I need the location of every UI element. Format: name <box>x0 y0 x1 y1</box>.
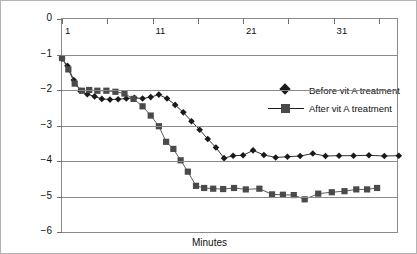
data-point-marker <box>115 96 122 103</box>
data-point-marker <box>341 188 347 194</box>
data-point-marker <box>185 169 191 175</box>
chart-legend: Before vit A treatment After vit A treat… <box>268 81 417 117</box>
y-axis-tick-label: −6 <box>28 225 52 236</box>
data-point-marker <box>272 154 279 161</box>
data-point-marker <box>256 186 262 192</box>
gridline <box>62 126 397 127</box>
y-axis-tick-label: −1 <box>28 48 52 59</box>
data-point-marker <box>366 152 373 159</box>
data-point-marker <box>163 139 169 145</box>
x-axis-tick <box>243 19 244 24</box>
data-point-marker <box>139 103 145 109</box>
series-line <box>62 58 377 199</box>
y-axis-tick-label: 0 <box>28 12 52 23</box>
y-axis-tick <box>57 90 62 91</box>
data-point-marker <box>65 66 71 72</box>
data-point-marker <box>59 55 65 61</box>
data-point-marker <box>329 189 335 195</box>
y-axis-tick-label: −5 <box>28 190 52 201</box>
data-point-marker <box>147 94 154 101</box>
x-axis-tick <box>334 19 335 24</box>
data-point-marker <box>243 186 249 192</box>
data-point-marker <box>374 185 380 191</box>
x-axis-tick <box>198 19 199 24</box>
y-axis-tick <box>57 126 62 127</box>
x-axis-tick-label: 11 <box>156 25 166 36</box>
x-axis-tick-label: 1 <box>65 25 70 36</box>
x-axis-tick <box>288 19 289 24</box>
data-point-marker <box>139 95 146 102</box>
x-axis-tick <box>379 19 380 24</box>
data-point-marker <box>230 152 237 159</box>
data-point-marker <box>107 96 114 103</box>
data-point-marker <box>336 152 343 159</box>
plot-area: Before vit A treatment After vit A treat… <box>61 18 398 233</box>
data-point-marker <box>193 183 199 189</box>
data-point-marker <box>240 152 247 159</box>
y-axis-tick <box>57 161 62 162</box>
gridline <box>62 90 397 91</box>
x-axis-tick-label: 21 <box>246 25 257 36</box>
data-point-marker <box>322 153 329 160</box>
legend-item-after: After vit A treatment <box>268 99 417 117</box>
data-point-marker <box>72 81 78 87</box>
data-point-marker <box>381 153 388 160</box>
y-axis-tick <box>57 232 62 233</box>
data-point-marker <box>121 90 127 96</box>
y-axis-tick <box>57 55 62 56</box>
x-axis-title: Minutes <box>1 237 417 248</box>
data-point-marker <box>156 91 163 98</box>
data-point-marker <box>297 153 304 160</box>
gridline <box>62 55 397 56</box>
y-axis-tick <box>57 197 62 198</box>
data-point-marker <box>91 93 98 100</box>
data-point-marker <box>353 186 359 192</box>
data-point-marker <box>261 152 268 159</box>
data-point-marker <box>210 186 216 192</box>
x-axis-tick <box>153 19 154 24</box>
data-point-marker <box>231 185 237 191</box>
y-axis-tick-label: −4 <box>28 154 52 165</box>
data-point-marker <box>364 186 370 192</box>
x-axis-tick <box>107 19 108 24</box>
x-axis-tick <box>62 19 63 24</box>
data-point-marker <box>99 96 106 103</box>
data-point-marker <box>201 185 207 191</box>
data-point-marker <box>250 147 257 154</box>
x-axis-tick-label: 31 <box>337 25 348 36</box>
data-point-marker <box>130 96 136 102</box>
square-marker-icon <box>268 102 304 114</box>
legend-label-after: After vit A treatment <box>309 103 392 114</box>
y-axis-tick-label: −3 <box>28 119 52 130</box>
data-point-marker <box>284 153 291 160</box>
gridline <box>62 161 397 162</box>
data-point-marker <box>220 186 226 192</box>
data-point-marker <box>148 112 154 118</box>
data-point-marker <box>309 150 316 157</box>
data-point-marker <box>396 152 403 159</box>
figure-container: Luminance (log cd) Minutes Before vit A … <box>0 0 417 254</box>
y-axis-tick-label: −2 <box>28 83 52 94</box>
data-point-marker <box>350 152 357 159</box>
gridline <box>62 197 397 198</box>
data-point-marker <box>170 146 176 152</box>
